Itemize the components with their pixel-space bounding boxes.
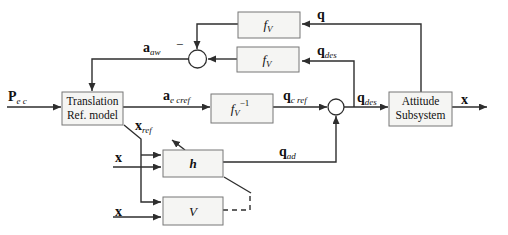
block-fv-mid: fV [237, 47, 299, 72]
connector-qdes-feedback [302, 61, 354, 107]
signal-label-q-des-mid: qdes [357, 90, 377, 107]
signal-label-a-aw: aaw [143, 40, 161, 57]
connector-sum1-to-translation [92, 59, 188, 91]
block-diagram: Translation Ref. model fV fV fV−1 Attitu… [0, 0, 508, 235]
block-attitude-subsystem: Attitude Subsystem [389, 92, 452, 126]
block-v: V [163, 197, 223, 225]
signal-label-x-input-v: x [115, 204, 122, 219]
connector-fvtop-to-sum1 [197, 24, 238, 49]
minus-sign: − [176, 37, 183, 52]
signal-label-q-des-feedback: qdes [317, 43, 337, 60]
switch-arm [224, 177, 251, 193]
diagram-canvas: Translation Ref. model fV fV fV−1 Attitu… [0, 0, 508, 235]
h-block-label: h [189, 156, 196, 171]
translation-label-line1: Translation [67, 95, 119, 107]
signal-label-a-ecref: ae cref [163, 88, 191, 105]
signal-label-q-feedback: q [317, 7, 325, 22]
block-translation-ref-model: Translation Ref. model [62, 92, 123, 125]
translation-label-line2: Ref. model [67, 109, 118, 121]
block-fv-inverse: fV−1 [211, 94, 273, 123]
signal-label-x-ref: xref [135, 118, 153, 135]
connector-xref [124, 125, 161, 202]
connector-v-dashed-output [223, 194, 250, 210]
signal-label-q-cref: qc ref [283, 88, 308, 105]
block-h: h [163, 150, 223, 177]
attitude-label-line1: Attitude [402, 95, 440, 107]
signal-label-x-output: x [461, 92, 468, 107]
signal-label-q-ad: qad [279, 144, 296, 161]
signal-label-x-input-h: x [115, 150, 122, 165]
sum-junction-attitude-error [189, 50, 207, 68]
block-fv-top: fV [238, 12, 300, 38]
connector-q-feedback [302, 24, 421, 92]
attitude-label-line2: Subsystem [396, 109, 446, 122]
signal-label-p-ec: Pe c [8, 89, 27, 106]
sum-junction-qdes [328, 99, 344, 115]
adaptation-arrow-icon [172, 140, 185, 150]
